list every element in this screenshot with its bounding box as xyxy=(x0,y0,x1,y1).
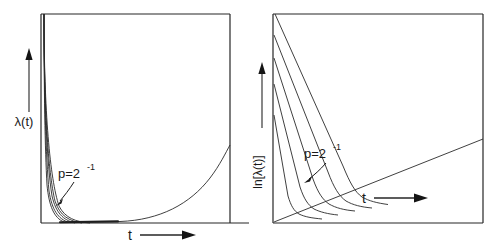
x-axis-arrow xyxy=(374,193,428,202)
log-curve-p3 xyxy=(274,58,355,211)
wear-out-curve xyxy=(62,145,230,223)
y-axis-label: λ(t) xyxy=(15,114,34,129)
log-hazard-curves xyxy=(274,14,388,219)
log-curve-p5 xyxy=(274,115,322,219)
plot-frame-left xyxy=(41,14,249,223)
plot-frame-right xyxy=(273,14,483,223)
x-axis-label: t xyxy=(128,227,132,243)
annotation-exponent-text: -1 xyxy=(87,162,95,172)
annotation-base-text: p=2 xyxy=(304,146,326,161)
log-curve-p1 xyxy=(275,14,388,205)
annotation-arrow-right xyxy=(309,163,326,179)
annotation-p-value-right: p=2 -1 xyxy=(304,142,341,183)
figure-root: λ(t) t p=2 -1 xyxy=(0,0,497,246)
x-axis-label: t xyxy=(362,190,366,206)
y-axis-label: ln[λ(t)] xyxy=(251,155,265,188)
panel-hazard-rate-log: ln[λ(t)] t p=2 -1 xyxy=(248,0,497,246)
y-axis-arrow xyxy=(25,48,32,112)
panel-hazard-rate-linear: λ(t) t p=2 -1 xyxy=(0,0,249,246)
right-panel-canvas: ln[λ(t)] t p=2 -1 xyxy=(248,0,497,246)
annotation-arrow-left xyxy=(60,182,74,201)
annotation-base-text: p=2 xyxy=(58,166,80,181)
x-axis-arrow xyxy=(140,231,196,240)
hazard-curve-p4 xyxy=(44,14,82,223)
left-panel-canvas: λ(t) t p=2 -1 xyxy=(0,0,249,246)
annotation-p-value-left: p=2 -1 xyxy=(56,162,95,206)
annotation-exponent-text: -1 xyxy=(333,142,341,152)
y-axis-arrow xyxy=(258,62,265,128)
baseline-shading xyxy=(60,221,118,222)
